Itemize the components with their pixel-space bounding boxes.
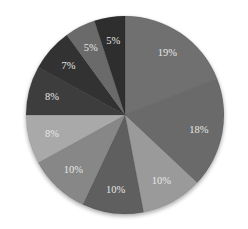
slice-label: 5% — [106, 35, 120, 46]
pie-chart-canvas: 19%18%10%10%10%8%8%7%5%5% — [0, 0, 248, 229]
slice-label: 8% — [45, 91, 59, 102]
slice-label: 19% — [158, 47, 178, 58]
slice-label: 10% — [152, 175, 172, 186]
slice-label: 18% — [189, 124, 209, 135]
slice-label: 10% — [64, 164, 84, 175]
slice-label: 10% — [106, 184, 126, 195]
slice-label: 7% — [62, 60, 76, 71]
pie-chart: 19%18%10%10%10%8%8%7%5%5% — [0, 0, 248, 229]
slice-label: 5% — [84, 42, 98, 53]
slice-label: 8% — [45, 128, 59, 139]
